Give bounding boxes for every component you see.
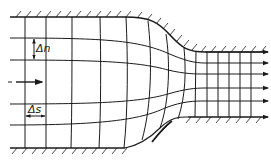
equipotential-lines (25, 17, 251, 148)
delta-n-dimension: Δn (34, 39, 51, 59)
flow-net-diagram: Δn Δs (0, 0, 271, 165)
delta-s-dimension: Δs (26, 103, 45, 116)
delta-s-label: Δs (27, 103, 42, 116)
delta-n-label: Δn (35, 42, 51, 55)
bottom-wall (10, 117, 268, 154)
